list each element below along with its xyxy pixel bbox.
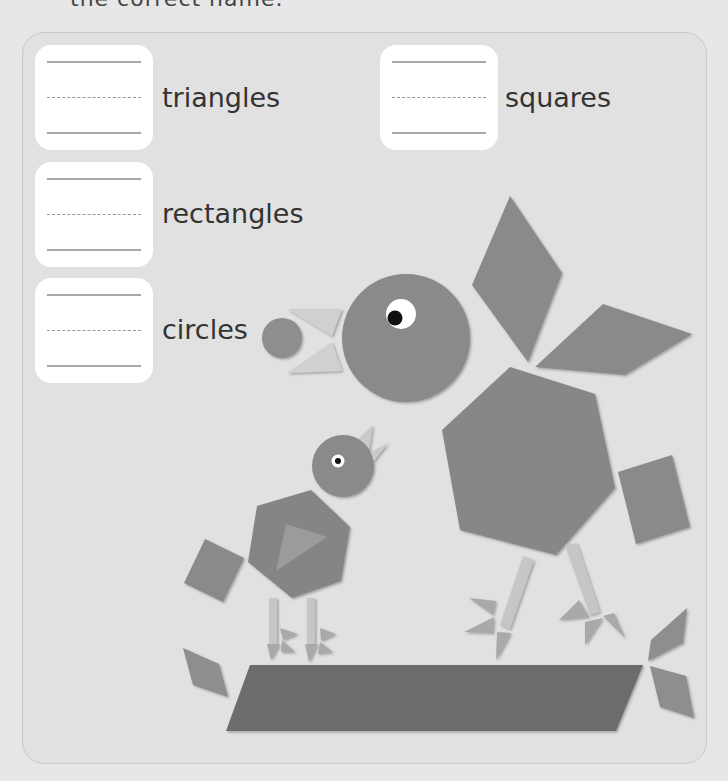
triangle-foot — [267, 644, 280, 660]
rhombus-right-lower — [650, 666, 694, 718]
hexagon-big-body — [442, 367, 615, 555]
rectangle-big-leg-left — [500, 556, 534, 629]
circle-big-head — [342, 274, 470, 402]
triangle-foot — [559, 600, 589, 620]
triangle-foot — [320, 628, 336, 641]
small-bird — [184, 425, 388, 662]
circle-food — [262, 318, 302, 358]
square-small-tail — [184, 539, 244, 602]
circle-small-head — [312, 435, 374, 497]
triangle-foot — [318, 642, 333, 654]
bird-scene — [0, 0, 728, 781]
triangle-foot — [281, 640, 295, 652]
eye-small-icon — [332, 455, 345, 468]
triangle-foot — [603, 613, 625, 638]
triangle-foot — [585, 618, 603, 645]
rectangle-big-leg-right — [565, 543, 600, 615]
rectangle-small-leg-left — [269, 598, 277, 645]
rhombus-tail-lower — [535, 304, 692, 375]
rhombus-left-ground — [183, 648, 228, 697]
square-big-wing — [618, 455, 690, 544]
parallelogram-ground — [226, 665, 643, 731]
rhombus-tail-upper — [472, 196, 562, 362]
triangle-foot — [469, 598, 496, 615]
triangle-foot — [305, 644, 318, 662]
eye-big-icon — [386, 299, 416, 329]
rhombus-right-upper — [648, 608, 687, 661]
triangle-foot — [280, 628, 298, 640]
triangle-foot — [496, 632, 511, 660]
triangle-foot — [464, 617, 494, 633]
rectangle-small-leg-right — [307, 598, 315, 645]
big-bird — [262, 196, 692, 660]
